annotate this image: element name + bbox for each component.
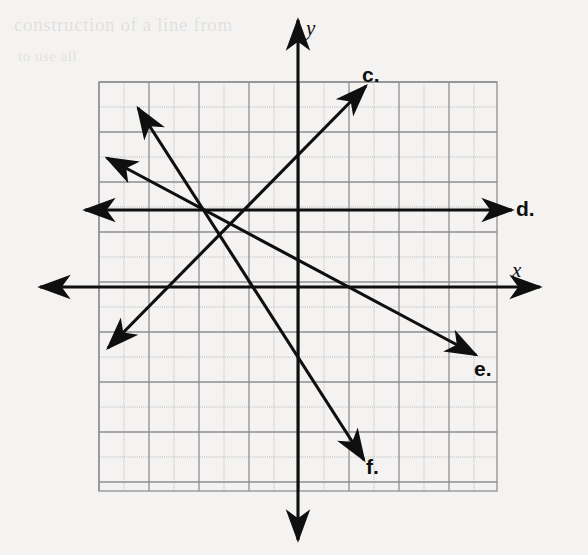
- line-label-e: e.: [474, 357, 492, 381]
- plotted-line-c: [108, 86, 366, 348]
- y-axis-label: y: [306, 16, 315, 41]
- coordinate-graph: [0, 0, 588, 555]
- line-label-c: c.: [362, 63, 380, 87]
- axes: [40, 20, 540, 540]
- line-label-f: f.: [366, 455, 379, 479]
- line-label-d: d.: [516, 197, 535, 221]
- x-axis-label: x: [512, 258, 521, 283]
- figure-root: construction of a line from to use all y…: [0, 0, 588, 555]
